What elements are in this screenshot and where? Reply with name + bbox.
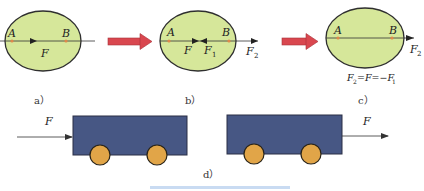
force-label: F <box>40 47 49 60</box>
panel-d-left-cart: F <box>17 115 187 165</box>
force1-label: F <box>203 44 212 57</box>
point-b-label: B <box>221 26 230 39</box>
panel-b: A B F F 1 F 2 b） <box>160 11 258 106</box>
panel-a: A B F a） <box>0 11 95 106</box>
wheel-icon <box>90 145 110 165</box>
push-force-label: F <box>44 115 53 128</box>
force2-arrowhead <box>251 38 258 44</box>
equation-middle: =F=−F <box>357 72 394 83</box>
caption-c: c） <box>358 95 374 106</box>
force2-arrowhead <box>406 35 414 41</box>
transition-arrow-icon <box>282 34 318 50</box>
transition-arrow-icon <box>108 34 152 50</box>
wheel-icon <box>244 144 264 164</box>
point-b-label: B <box>61 27 70 40</box>
point-b-label: B <box>388 24 397 37</box>
point-a-label: A <box>166 26 175 39</box>
caption-d: d） <box>203 169 219 180</box>
force-transmissibility-diagram: A B F a） A B F F 1 F 2 b） A <box>0 0 424 191</box>
pull-force-label: F <box>362 115 371 128</box>
caption-a: a） <box>34 95 50 106</box>
cart-body <box>73 116 187 155</box>
wheel-icon <box>147 145 167 165</box>
wheel-icon <box>301 144 321 164</box>
equation: F 2 =F=−F 1 <box>346 72 396 85</box>
panel-c: A B F 2 F 2 =F=−F 1 c） <box>326 8 421 106</box>
force2-label: F <box>245 45 254 58</box>
force2-subscript: 2 <box>417 50 421 58</box>
point-b-marker <box>227 39 230 42</box>
point-a-label: A <box>333 24 342 37</box>
cart-body <box>227 115 342 154</box>
bottom-highlight-bar <box>150 186 290 189</box>
force-label: F <box>183 44 192 57</box>
caption-b: b） <box>185 95 201 106</box>
panel-d-right-cart: F <box>227 115 388 164</box>
force2-subscript: 2 <box>254 52 258 60</box>
point-a-label: A <box>7 27 16 40</box>
equation-f1-sub: 1 <box>392 78 396 85</box>
point-a-marker <box>167 39 170 42</box>
force1-subscript: 1 <box>212 51 216 59</box>
